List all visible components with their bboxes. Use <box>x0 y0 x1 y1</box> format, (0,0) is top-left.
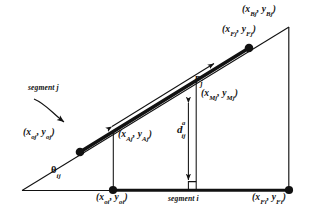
label-distance-d: daij <box>177 124 190 135</box>
label-point-oj: (xoj, yoj) <box>23 128 55 138</box>
label-vector-pj: pj <box>195 72 203 83</box>
label-segment-j: segment j <box>28 84 59 92</box>
node-Fi <box>285 186 293 194</box>
diagram-canvas <box>0 0 321 212</box>
label-point-Bj: (xBj, yBj) <box>242 5 276 15</box>
label-angle-theta: θij <box>51 165 61 176</box>
label-point-oi: (xoi, yoi) <box>96 193 128 203</box>
node-oj <box>76 148 85 157</box>
label-point-Fj: (xFj, yFj) <box>222 25 256 35</box>
segment-j-line <box>80 48 249 152</box>
geometry-figure: (xBj, yBj) (xFj, yFj) pj (xMj, yMj) segm… <box>0 0 321 212</box>
label-point-Aj: (xAj, yAj) <box>118 130 152 140</box>
node-Bj <box>245 44 254 53</box>
label-point-Mj: (xMj, yMj) <box>201 89 238 99</box>
segment-j-pointer-arrow <box>34 99 64 122</box>
label-segment-i: segment i <box>168 195 199 203</box>
label-point-Fi: (xFi, yFi) <box>252 193 286 203</box>
